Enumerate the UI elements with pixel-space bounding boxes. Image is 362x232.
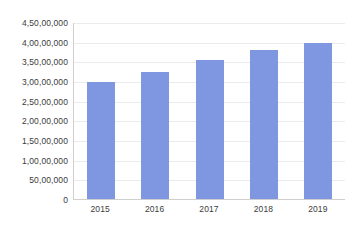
x-axis-tick-label: 2016 xyxy=(127,204,181,214)
y-axis-tick-label: 3,50,00,000 xyxy=(0,58,68,67)
plot-area xyxy=(73,23,345,200)
gridline xyxy=(74,200,345,201)
y-axis-tick-label: 1,00,00,000 xyxy=(0,156,68,165)
bar-slot xyxy=(291,23,345,199)
y-axis-tick-label: 2,50,00,000 xyxy=(0,97,68,106)
x-axis-tick-label: 2017 xyxy=(182,204,236,214)
y-axis-tick-label: 4,50,00,000 xyxy=(0,19,68,28)
bar[interactable] xyxy=(141,72,169,199)
x-axis-tick-labels: 20152016201720182019 xyxy=(73,204,345,214)
bar-slot xyxy=(182,23,236,199)
y-axis-tick-label: 2,00,00,000 xyxy=(0,117,68,126)
bar-slot xyxy=(237,23,291,199)
y-axis-tick-label: 50,00,000 xyxy=(0,176,68,185)
y-axis-tick-label: 0 xyxy=(0,196,68,205)
bar-slot xyxy=(128,23,182,199)
bar-slot xyxy=(74,23,128,199)
bar[interactable] xyxy=(304,43,332,199)
bar[interactable] xyxy=(87,82,115,199)
x-axis-tick-label: 2015 xyxy=(73,204,127,214)
y-axis-tick-label: 4,00,00,000 xyxy=(0,38,68,47)
bar[interactable] xyxy=(250,50,278,199)
y-axis-tick-labels: 050,00,0001,00,00,0001,50,00,0002,00,00,… xyxy=(0,23,68,200)
bar-chart: 050,00,0001,00,00,0001,50,00,0002,00,00,… xyxy=(0,0,362,232)
bar[interactable] xyxy=(196,60,224,199)
x-axis-tick-label: 2018 xyxy=(236,204,290,214)
y-axis-tick-label: 1,50,00,000 xyxy=(0,137,68,146)
y-axis-tick-label: 3,00,00,000 xyxy=(0,78,68,87)
x-axis-tick-label: 2019 xyxy=(291,204,345,214)
bar-series xyxy=(74,23,345,199)
